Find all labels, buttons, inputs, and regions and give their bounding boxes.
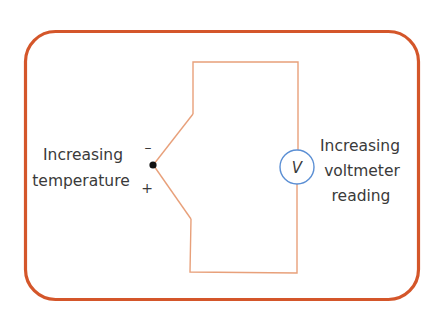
thermocouple-wire-lower	[154, 166, 191, 219]
right-label-line3: reading	[332, 187, 391, 205]
plus-sign: +	[141, 180, 153, 196]
voltmeter-icon: V	[280, 150, 314, 184]
junction-dot	[149, 161, 156, 168]
right-label-line1: Increasing	[320, 137, 400, 155]
circuit-wire-bottom	[190, 184, 297, 273]
right-label-line2: voltmeter	[324, 162, 400, 180]
thermocouple-diagram: V – + Increasing temperature Increasing …	[0, 0, 445, 329]
thermocouple-wire-upper	[154, 114, 193, 164]
circuit-wire-top	[193, 62, 298, 150]
left-label-line1: Increasing	[43, 146, 123, 164]
voltmeter-symbol: V	[292, 159, 304, 177]
left-label-line2: temperature	[32, 172, 129, 190]
minus-sign: –	[145, 139, 152, 155]
